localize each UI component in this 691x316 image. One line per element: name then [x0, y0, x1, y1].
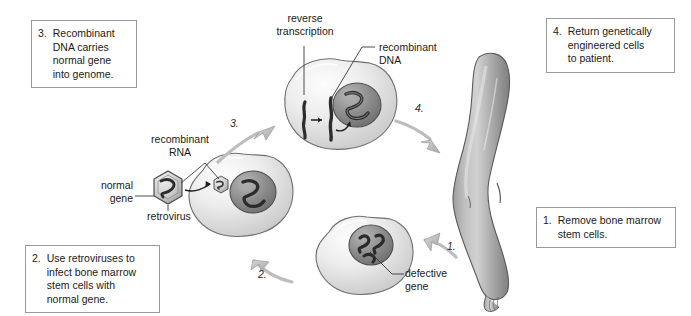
- gene-therapy-diagram: 3. Recombinant DNA carries normal gene i…: [0, 0, 691, 316]
- step-box-1: 1. Remove bone marrow stem cells.: [536, 207, 676, 248]
- step-box-2: 2. Use retroviruses to infect bone marro…: [25, 245, 160, 313]
- step-4-text: Return genetically engineered cells to p…: [568, 25, 652, 66]
- step-2-text: Use retroviruses to infect bone marrow s…: [47, 252, 136, 306]
- cell-bottom-defective: [316, 216, 413, 294]
- label-recombinant-rna: recombinant RNA: [141, 133, 219, 158]
- step-2-number: 2.: [32, 252, 41, 266]
- label-reverse-transcription: reverse transcription: [270, 12, 340, 37]
- arrow-number-3: 3.: [230, 117, 239, 129]
- step-3-text: Recombinant DNA carries normal gene into…: [53, 27, 115, 81]
- cell-middle-infected: [189, 153, 293, 236]
- label-recombinant-dna: recombinant DNA: [379, 41, 461, 66]
- arrow-number-2: 2.: [258, 268, 267, 280]
- label-retrovirus: retrovirus: [138, 210, 200, 223]
- label-normal-gene: normal gene: [88, 179, 133, 204]
- step-box-4: 4. Return genetically engineered cells t…: [546, 18, 675, 73]
- step-box-3: 3. Recombinant DNA carries normal gene i…: [31, 20, 137, 88]
- arrow-number-4: 4.: [415, 102, 424, 114]
- label-defective-gene: defective gene: [405, 267, 467, 292]
- step-arrow-4: [396, 121, 440, 153]
- arrow-number-1: 1.: [447, 240, 456, 252]
- cell-top-recombinant-dna: [285, 59, 397, 150]
- step-1-text: Remove bone marrow stem cells.: [558, 214, 661, 241]
- step-4-number: 4.: [553, 25, 562, 39]
- step-1-number: 1.: [543, 214, 552, 228]
- step-3-number: 3.: [38, 27, 47, 41]
